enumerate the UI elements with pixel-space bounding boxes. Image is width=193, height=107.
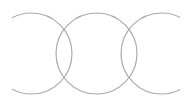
- middle-circle: [56, 13, 137, 94]
- circles-diagram: [0, 0, 193, 107]
- diagram-canvas: [0, 0, 193, 107]
- right-circle: [121, 13, 193, 94]
- left-circle: [0, 13, 72, 94]
